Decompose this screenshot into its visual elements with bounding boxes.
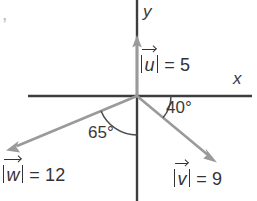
abs-bar-right-u <box>157 55 158 73</box>
x-axis-label: x <box>233 70 242 87</box>
vector-v-value: = 9 <box>196 169 222 189</box>
vector-u-value: = 5 <box>164 55 190 75</box>
vector-w-symbol: w <box>5 165 20 185</box>
vector-v-magnitude-label: v = 9 <box>173 169 222 188</box>
vector-v-arrowhead <box>203 148 217 162</box>
vector-w-magnitude-label: w = 12 <box>2 165 66 184</box>
y-axis-label: y <box>143 3 152 20</box>
vector-u-magnitude-label: u = 5 <box>140 55 190 74</box>
vector-v-symbol: v <box>176 169 187 189</box>
vector-w-value: = 12 <box>29 165 65 185</box>
angle-65-label: 65° <box>88 124 114 141</box>
vector-w-shaft <box>17 96 137 146</box>
vector-diagram: , x y u = 5 v = 9 w = 12 40° 65° <box>0 0 257 201</box>
abs-bar-right-v <box>189 169 190 187</box>
abs-bar-right-w <box>22 165 23 183</box>
scan-artifact-mark: , <box>2 4 7 23</box>
vector-u-symbol: u <box>143 55 155 75</box>
angle-40-label: 40° <box>166 99 192 116</box>
